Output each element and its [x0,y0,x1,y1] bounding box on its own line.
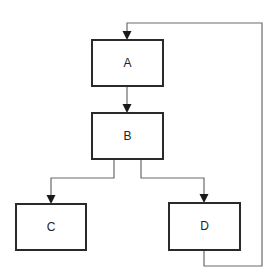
node-a-label: A [123,56,131,70]
node-c: C [16,204,86,250]
flowchart-diagram: A B C D [0,0,277,278]
arrowhead-icon [200,194,209,203]
arrowhead-icon [123,104,132,113]
edge-a-to-b [123,86,132,113]
node-a: A [92,40,163,86]
node-b-label: B [123,129,131,143]
edge-b-to-c [47,159,115,204]
node-b: B [92,113,163,159]
node-c-label: C [47,220,56,234]
edge-b-to-d [141,159,209,203]
node-d-label: D [200,219,209,233]
node-d: D [169,203,240,250]
arrowhead-icon [123,31,132,40]
arrowhead-icon [47,195,56,204]
